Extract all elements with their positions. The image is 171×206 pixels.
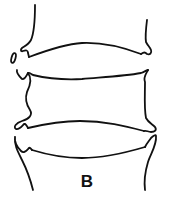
top-vertebra (21, 5, 151, 57)
middle-vertebra-upper-endplate (17, 70, 148, 79)
top-vertebra-lower-endplate (29, 43, 141, 57)
top-vertebra-left-edge (21, 5, 35, 57)
middle-vertebra (15, 70, 156, 132)
middle-vertebra-lower-endplate (28, 121, 144, 131)
panel-label: B (78, 172, 96, 192)
small-oval-fragment (10, 53, 16, 64)
middle-vertebra-right-edge (144, 70, 156, 132)
bottom-vertebra-right-edge (145, 135, 156, 190)
bottom-vertebra-upper-endplate (32, 147, 145, 158)
bottom-vertebra-left-edge (15, 137, 33, 190)
top-vertebra-right-edge (141, 20, 151, 54)
middle-vertebra-left-edge (15, 73, 31, 129)
